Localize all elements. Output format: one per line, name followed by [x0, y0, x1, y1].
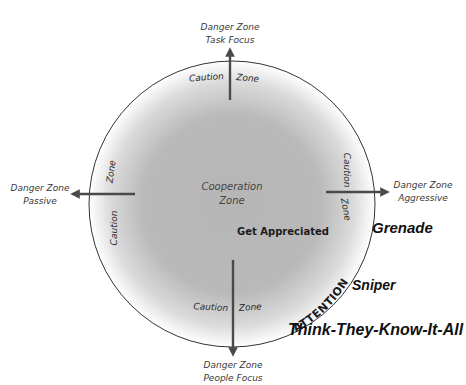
danger-zone-left-line2: Passive	[23, 196, 57, 206]
cooperation-zone-line1: Cooperation	[201, 181, 262, 192]
zone-label-top: Zone	[235, 72, 260, 84]
behavior-think-they-know-it-all: Think-They-Know-It-All	[288, 321, 464, 338]
behavior-sniper: Sniper	[352, 277, 397, 293]
behavior-grenade: Grenade	[372, 219, 433, 236]
danger-zone-bottom-line1: Danger Zone	[204, 360, 263, 370]
danger-zone-right-line2: Aggressive	[397, 193, 448, 203]
danger-zone-right-line1: Danger Zone	[394, 180, 453, 190]
danger-zone-bottom-line2: People Focus	[203, 373, 262, 383]
cooperation-zone-line2: Zone	[218, 195, 244, 206]
caution-label-bottom: Caution	[193, 301, 229, 313]
zone-diagram: Danger Zone Task Focus Danger Zone Peopl…	[0, 0, 466, 385]
danger-zone-left-line1: Danger Zone	[11, 183, 70, 193]
intent-label: Get Appreciated	[237, 226, 329, 237]
danger-zone-top-line2: Task Focus	[206, 35, 255, 45]
caution-label-right: Caution	[342, 153, 352, 188]
danger-zone-top-line1: Danger Zone	[201, 22, 260, 32]
zone-label-bottom: Zone	[237, 301, 262, 313]
caution-label-left: Caution	[109, 210, 119, 245]
